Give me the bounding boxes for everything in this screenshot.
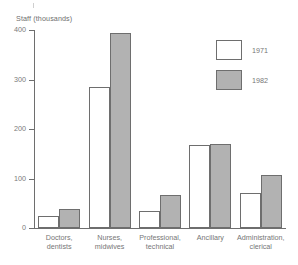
y-axis-tick — [29, 80, 35, 81]
bar-1971-1 — [89, 87, 110, 228]
legend-label-1982: 1982 — [252, 76, 268, 85]
y-axis-tick-label: 0 — [22, 224, 26, 231]
legend-swatch-1971 — [216, 40, 242, 60]
bar-1971-0 — [38, 216, 59, 228]
x-axis-category-label: Administration, clerical — [232, 233, 290, 252]
y-axis-tick-label: 100 — [14, 175, 26, 182]
y-axis-tick-label: 400 — [14, 26, 26, 33]
bar-1971-4 — [240, 193, 261, 228]
bar-1982-2 — [160, 195, 181, 228]
bar-chart: Staff (thousands) 0100200300400Doctors, … — [0, 0, 298, 265]
legend-label-1971: 1971 — [252, 46, 268, 55]
y-axis-tick-label: 200 — [14, 125, 26, 132]
y-axis-tick — [29, 228, 35, 229]
y-axis-tick — [29, 179, 35, 180]
bar-1982-1 — [110, 33, 131, 228]
legend-swatch-1982 — [216, 70, 242, 90]
plot-area: 0100200300400Doctors, dentistsNurses, mi… — [0, 0, 298, 265]
bar-1982-0 — [59, 209, 80, 228]
y-axis-tick — [29, 30, 35, 31]
bar-1982-3 — [210, 144, 231, 228]
y-axis-tick-label: 300 — [14, 76, 26, 83]
x-axis-line — [34, 228, 286, 229]
bar-1982-4 — [261, 175, 282, 228]
bar-1971-2 — [139, 211, 160, 228]
y-axis-tick — [29, 129, 35, 130]
bar-1971-3 — [189, 145, 210, 228]
